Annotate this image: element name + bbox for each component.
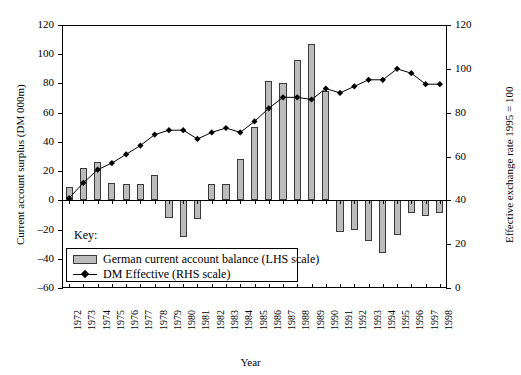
x-tick-bottom [98, 284, 99, 288]
legend-item-bar: German current account balance (LHS scal… [73, 252, 319, 267]
bar-1980 [180, 200, 187, 237]
x-tick-bottom [155, 284, 156, 288]
bar-1982 [208, 184, 215, 200]
bar-1972 [66, 187, 73, 200]
x-tick-label-1989: 1989 [316, 310, 326, 330]
x-tick-bottom [69, 284, 70, 288]
bar-1987 [279, 83, 286, 200]
x-tick-label-1993: 1993 [373, 310, 383, 330]
x-tick-bottom [169, 284, 170, 288]
bar-1995 [394, 200, 401, 235]
bar-1990 [322, 91, 329, 201]
bar-1978 [151, 175, 158, 200]
x-tick-bottom [283, 284, 284, 288]
x-tick-bottom [140, 284, 141, 288]
x-tick-bottom [83, 284, 84, 288]
x-tick-label-1973: 1973 [87, 310, 97, 330]
bar-1975 [108, 183, 115, 201]
x-tick-label-1987: 1987 [287, 310, 297, 330]
bar-1983 [222, 184, 229, 200]
bar-1974 [94, 162, 101, 200]
x-axis-title: Year [241, 356, 261, 368]
bar-1977 [137, 184, 144, 200]
x-tick-label-1996: 1996 [415, 310, 425, 330]
x-tick-label-1982: 1982 [216, 310, 226, 330]
zero-axis-line [62, 200, 447, 201]
left-tick [58, 230, 63, 231]
x-tick-bottom [426, 284, 427, 288]
right-tick [446, 288, 451, 289]
key-label: Key: [74, 228, 97, 243]
right-tick-label: 0 [455, 282, 461, 293]
x-tick-bottom [269, 284, 270, 288]
bar-1989 [308, 44, 315, 200]
x-tick-label-1979: 1979 [173, 310, 183, 330]
x-tick-label-1977: 1977 [144, 310, 154, 330]
x-tick-label-1986: 1986 [273, 310, 283, 330]
left-tick [58, 288, 63, 289]
left-tick [58, 142, 63, 143]
bar-1991 [336, 200, 343, 232]
legend-item-line-label: DM Effective (RHS scale) [103, 267, 230, 282]
bar-1992 [351, 200, 358, 229]
left-tick-label: 120 [20, 19, 54, 30]
x-tick-label-1976: 1976 [130, 310, 140, 330]
x-tick-label-1984: 1984 [244, 310, 254, 330]
x-tick-label-1981: 1981 [201, 310, 211, 330]
right-tick-label: 60 [455, 151, 466, 162]
x-tick-bottom [383, 284, 384, 288]
x-tick-bottom [326, 284, 327, 288]
bar-1988 [294, 60, 301, 200]
bar-1976 [123, 184, 130, 200]
left-tick [58, 83, 63, 84]
bar-1984 [237, 159, 244, 200]
x-tick-bottom [297, 284, 298, 288]
bar-swatch-icon [73, 255, 97, 264]
right-tick [446, 69, 451, 70]
x-tick-label-1988: 1988 [301, 310, 311, 330]
x-tick-bottom [112, 284, 113, 288]
x-tick-bottom [411, 284, 412, 288]
right-tick [446, 244, 451, 245]
left-tick-label: –60 [20, 282, 54, 293]
right-axis-title: Effective exchange rate 1995 = 100 [503, 86, 515, 243]
left-axis-title: Current account surplus (DM 000m) [14, 84, 26, 245]
x-tick-label-1995: 1995 [401, 310, 411, 330]
x-tick-label-1972: 1972 [73, 310, 83, 330]
x-tick-bottom [183, 284, 184, 288]
x-tick-bottom [312, 284, 313, 288]
bar-1986 [265, 81, 272, 201]
x-tick-label-1980: 1980 [187, 310, 197, 330]
x-tick-label-1997: 1997 [430, 310, 440, 330]
x-tick-label-1983: 1983 [230, 310, 240, 330]
x-tick-label-1991: 1991 [344, 310, 354, 330]
left-tick [58, 259, 63, 260]
bar-1993 [365, 200, 372, 241]
line-marker-swatch-icon [73, 270, 97, 279]
left-tick-label: 100 [20, 48, 54, 59]
bar-1973 [80, 168, 87, 200]
x-tick-label-1994: 1994 [387, 310, 397, 330]
x-tick-bottom [240, 284, 241, 288]
bar-1985 [251, 127, 258, 200]
x-tick-bottom [197, 284, 198, 288]
x-tick-label-1974: 1974 [102, 310, 112, 330]
x-tick-label-1978: 1978 [159, 310, 169, 330]
x-tick-bottom [354, 284, 355, 288]
chart-canvas: 120100806040200–20–40–60 120100806040200… [0, 0, 521, 375]
x-tick-label-1985: 1985 [259, 310, 269, 330]
bar-1994 [379, 200, 386, 253]
x-tick-label-1975: 1975 [116, 310, 126, 330]
right-tick-label: 120 [455, 19, 472, 30]
x-tick-label-1998: 1998 [444, 310, 454, 330]
right-tick-label: 80 [455, 107, 466, 118]
legend-item-line: DM Effective (RHS scale) [73, 267, 230, 282]
left-tick [58, 113, 63, 114]
legend-item-bar-label: German current account balance (LHS scal… [103, 252, 319, 267]
right-tick [446, 113, 451, 114]
x-tick-label-1992: 1992 [358, 310, 368, 330]
x-tick-bottom [212, 284, 213, 288]
right-tick [446, 25, 451, 26]
x-tick-bottom [340, 284, 341, 288]
x-tick-bottom [255, 284, 256, 288]
